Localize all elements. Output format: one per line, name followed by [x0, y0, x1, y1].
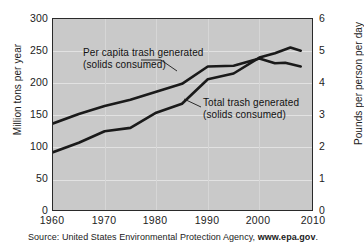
annotation-total-trash-line1: Total trash generated: [203, 97, 299, 109]
xtick-2000: 2000: [241, 215, 275, 226]
xtick-1980: 1980: [138, 215, 172, 226]
source-note-suffix: .: [315, 232, 318, 242]
ytick-left-100: 100: [22, 141, 48, 151]
ytick-right-3: 3: [319, 109, 333, 119]
ytick-left-150: 150: [22, 109, 48, 119]
source-note: Source: United States Environmental Prot…: [28, 232, 318, 242]
source-note-prefix: Source: United States Environmental Prot…: [28, 232, 258, 242]
y-axis-label-left: Million tons per year: [12, 35, 23, 145]
annotation-total-trash-line2: (solids consumed): [203, 109, 299, 121]
xtick-1960: 1960: [35, 215, 69, 226]
annotation-per-capita: Per capita trash generated (solids consu…: [83, 47, 203, 70]
annotation-per-capita-line1: Per capita trash generated: [83, 47, 203, 59]
ytick-right-5: 5: [319, 45, 333, 55]
ytick-right-1: 1: [319, 173, 333, 183]
ytick-right-4: 4: [319, 77, 333, 87]
xtick-1990: 1990: [190, 215, 224, 226]
ytick-left-300: 300: [22, 13, 48, 23]
source-note-url: www.epa.gov: [258, 232, 316, 242]
annotation-total-trash: Total trash generated (solids consumed): [203, 97, 299, 120]
xtick-2010: 2010: [296, 215, 330, 226]
y-axis-label-right: Pounds per person per day: [353, 22, 364, 146]
ytick-left-50: 50: [22, 173, 48, 183]
xtick-1970: 1970: [87, 215, 121, 226]
ytick-right-2: 2: [319, 141, 333, 151]
ytick-left-250: 250: [22, 45, 48, 55]
leader-line-total-trash: [184, 99, 201, 107]
annotation-per-capita-line2: (solids consumed): [83, 59, 203, 71]
ytick-right-6: 6: [319, 13, 333, 23]
ytick-left-200: 200: [22, 77, 48, 87]
